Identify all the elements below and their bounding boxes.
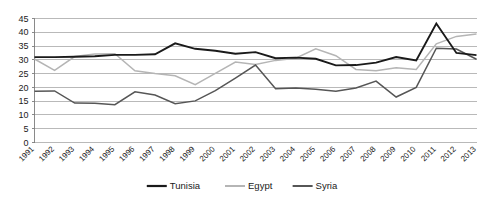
x-tick-label: 2013 bbox=[459, 144, 478, 163]
y-axis bbox=[32, 19, 35, 143]
y-tick-label: 10 bbox=[18, 110, 28, 120]
y-tick-label: 40 bbox=[18, 27, 28, 37]
x-tick-label: 1991 bbox=[17, 144, 36, 163]
x-tick-label: 2002 bbox=[238, 144, 257, 163]
x-tick-label: 1994 bbox=[77, 144, 96, 163]
gridlines bbox=[35, 19, 477, 143]
x-tick-label: 2004 bbox=[278, 144, 297, 163]
y-tick-label: 35 bbox=[18, 41, 28, 51]
x-tick-label: 2012 bbox=[439, 144, 458, 163]
x-tick-label: 2009 bbox=[379, 144, 398, 163]
x-tick-label: 1993 bbox=[57, 144, 76, 163]
x-tick-label: 2010 bbox=[399, 144, 418, 163]
y-tick-label: 45 bbox=[18, 14, 28, 24]
x-tick-label: 1999 bbox=[178, 144, 197, 163]
x-tick-label: 1992 bbox=[37, 144, 56, 163]
y-tick-label: 5 bbox=[23, 124, 28, 134]
legend-label-syria: Syria bbox=[316, 180, 338, 191]
x-tick-label: 2011 bbox=[419, 144, 438, 163]
x-tick-label: 1998 bbox=[158, 144, 177, 163]
x-tick-label: 2005 bbox=[298, 144, 317, 163]
x-tick-label: 2000 bbox=[198, 144, 217, 163]
line-chart: 051015202530354045 199119921993199419951… bbox=[0, 0, 489, 201]
y-tick-label: 20 bbox=[18, 83, 28, 93]
x-tick-label: 2007 bbox=[338, 144, 357, 163]
x-tick-label: 2006 bbox=[318, 144, 337, 163]
y-tick-label: 15 bbox=[18, 96, 28, 106]
x-tick-label: 2003 bbox=[258, 144, 277, 163]
x-tick-label: 2008 bbox=[359, 144, 378, 163]
legend-label-egypt: Egypt bbox=[248, 180, 273, 191]
data-series bbox=[35, 23, 477, 104]
x-tick-label: 1995 bbox=[97, 144, 116, 163]
x-axis-tick-labels: 1991199219931994199519961997199819992000… bbox=[17, 144, 478, 163]
chart-legend: TunisiaEgyptSyria bbox=[147, 180, 338, 191]
chart-canvas: 051015202530354045 199119921993199419951… bbox=[0, 0, 489, 201]
x-tick-label: 2001 bbox=[218, 144, 237, 163]
y-axis-tick-labels: 051015202530354045 bbox=[18, 14, 28, 148]
legend-label-tunisia: Tunisia bbox=[170, 180, 201, 191]
y-tick-label: 25 bbox=[18, 69, 28, 79]
x-tick-label: 1997 bbox=[138, 144, 157, 163]
y-tick-label: 30 bbox=[18, 55, 28, 65]
x-tick-label: 1996 bbox=[117, 144, 136, 163]
series-line-tunisia bbox=[35, 23, 477, 65]
